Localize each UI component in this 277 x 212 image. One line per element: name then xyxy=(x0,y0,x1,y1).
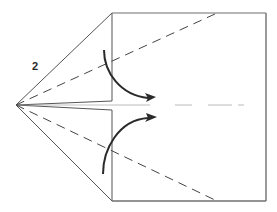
lower-fold-arrow-icon xyxy=(103,113,157,174)
diagram-canvas xyxy=(0,0,277,212)
step-number-label: 2 xyxy=(32,60,38,72)
left-point-flaps xyxy=(16,13,112,201)
square-panel xyxy=(112,13,266,201)
